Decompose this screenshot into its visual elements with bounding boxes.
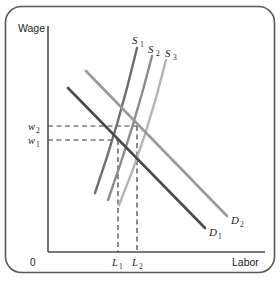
labor-market-diagram: Wage Labor 0 w 2 w 1 L 1 L 2 S 1 S 2 (0, 0, 280, 284)
curve-label-s2-base: S (148, 43, 154, 55)
curve-label-d2-base: D (230, 214, 239, 226)
origin-label: 0 (30, 257, 36, 268)
y-tick-w1-base: w (28, 135, 35, 146)
curve-label-s3-sub: 3 (173, 53, 177, 62)
curve-label-d1-sub: 1 (218, 232, 222, 241)
y-tick-w2-base: w (28, 121, 35, 132)
y-tick-w2-sub: 2 (36, 126, 40, 135)
curve-label-s1-sub: 1 (140, 40, 144, 49)
curve-label-s1-base: S (132, 34, 138, 46)
economics-figure: Wage Labor 0 w 2 w 1 L 1 L 2 S 1 S 2 (0, 0, 280, 284)
curve-label-s3-base: S (165, 47, 171, 59)
x-tick-l1-sub: 1 (119, 262, 123, 271)
x-tick-l1-base: L (111, 257, 118, 268)
y-axis-label: Wage (18, 22, 45, 34)
curve-label-s2-sub: 2 (156, 49, 160, 58)
x-axis-label: Labor (232, 256, 259, 268)
y-tick-w1-sub: 1 (36, 140, 40, 149)
x-tick-l2-base: L (131, 257, 138, 268)
x-tick-l2-sub: 2 (139, 262, 143, 271)
curve-label-d2-sub: 2 (240, 220, 244, 229)
curve-label-d1-base: D (208, 226, 217, 238)
